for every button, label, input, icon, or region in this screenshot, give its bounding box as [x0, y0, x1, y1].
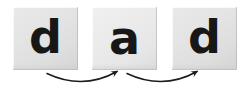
letter-tile-3[interactable]: d	[172, 7, 237, 70]
letter-tile-2[interactable]: a	[92, 7, 157, 70]
blend-arrow-2	[127, 72, 197, 82]
letter-tile-1[interactable]: d	[13, 7, 78, 70]
letter-glyph-2: a	[109, 15, 140, 61]
blend-arrow-1	[47, 72, 117, 82]
letter-glyph-1: d	[29, 14, 62, 60]
letter-sequence-diagram: d a d	[0, 0, 249, 93]
letter-glyph-3: d	[188, 14, 221, 60]
